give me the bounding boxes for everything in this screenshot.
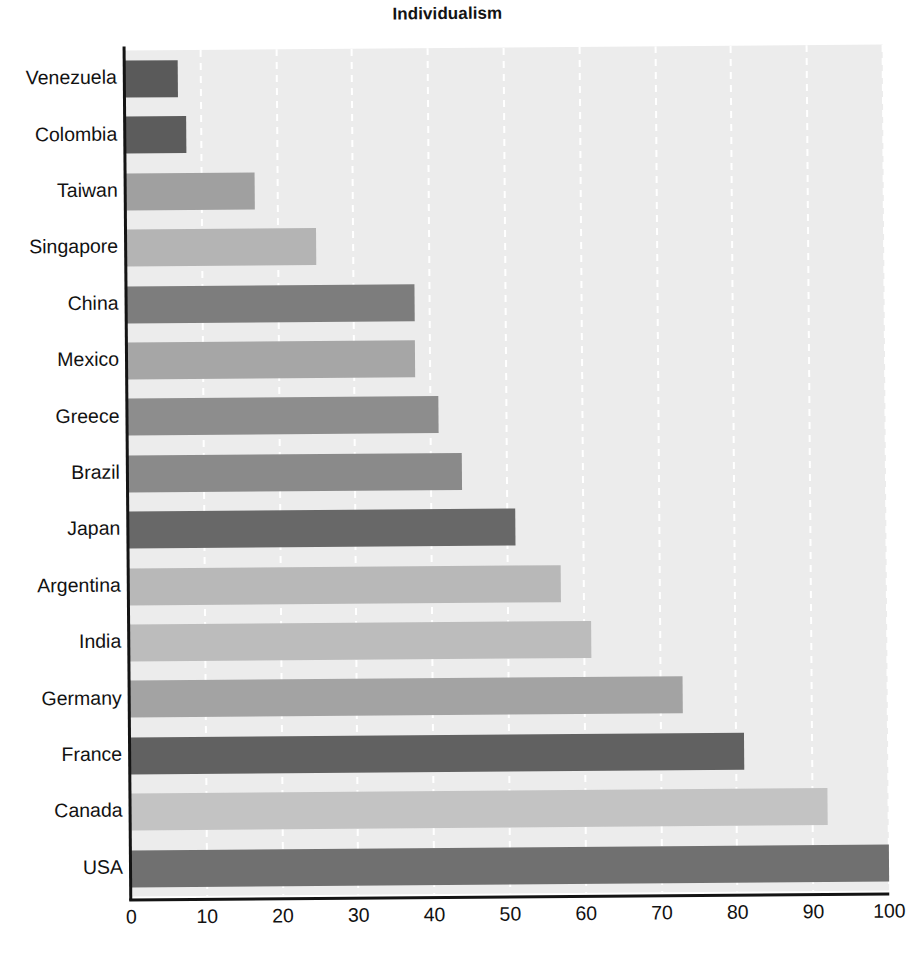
bar-row bbox=[125, 45, 883, 107]
y-tick-label-argentina: Argentina bbox=[3, 573, 121, 597]
bars-group bbox=[125, 45, 883, 51]
x-tick-label-100: 100 bbox=[859, 899, 910, 922]
bar-row bbox=[125, 101, 883, 163]
bar-row bbox=[130, 778, 888, 840]
x-tick-label-30: 30 bbox=[329, 904, 389, 927]
x-tick-label-0: 0 bbox=[101, 905, 161, 928]
bar-row bbox=[127, 327, 885, 389]
bar-row bbox=[129, 609, 887, 671]
y-axis-tick-labels: VenezuelaColombiaTaiwanSingaporeChinaMex… bbox=[0, 51, 123, 898]
y-tick-label-germany: Germany bbox=[4, 686, 122, 710]
y-tick-label-usa: USA bbox=[5, 855, 123, 879]
x-tick-label-80: 80 bbox=[708, 901, 768, 924]
y-tick-label-france: France bbox=[4, 743, 122, 767]
x-tick-label-50: 50 bbox=[480, 902, 540, 925]
chart-title: Individualism bbox=[0, 0, 898, 27]
bar-brazil[interactable] bbox=[128, 453, 462, 493]
y-tick-label-india: India bbox=[3, 630, 121, 654]
chart-figure: Individualism VenezuelaColombiaTaiwanSin… bbox=[0, 0, 906, 965]
plot-area bbox=[125, 45, 890, 897]
bar-row bbox=[127, 383, 885, 445]
bar-france[interactable] bbox=[130, 733, 744, 775]
bar-china[interactable] bbox=[126, 284, 414, 323]
bar-mexico[interactable] bbox=[127, 340, 415, 379]
y-tick-label-canada: Canada bbox=[4, 799, 122, 823]
bar-row bbox=[128, 496, 886, 558]
y-tick-label-greece: Greece bbox=[1, 404, 119, 428]
y-tick-label-japan: Japan bbox=[2, 517, 120, 541]
bar-singapore[interactable] bbox=[126, 228, 316, 266]
y-tick-label-singapore: Singapore bbox=[0, 235, 118, 259]
bar-row bbox=[131, 834, 889, 896]
x-axis-tick-labels: 0102030405060708090100 bbox=[3, 899, 905, 946]
y-tick-label-colombia: Colombia bbox=[0, 122, 117, 146]
y-tick-label-venezuela: Venezuela bbox=[0, 66, 117, 90]
bar-japan[interactable] bbox=[128, 509, 515, 549]
x-tick-label-90: 90 bbox=[783, 900, 843, 923]
bar-canada[interactable] bbox=[130, 788, 828, 830]
bar-venezuela[interactable] bbox=[125, 60, 178, 97]
x-tick-label-10: 10 bbox=[177, 905, 237, 928]
y-tick-label-brazil: Brazil bbox=[2, 461, 120, 485]
x-tick-label-40: 40 bbox=[404, 903, 464, 926]
bar-row bbox=[128, 439, 886, 501]
bar-row bbox=[126, 214, 884, 276]
y-tick-label-mexico: Mexico bbox=[1, 348, 119, 372]
x-tick-label-70: 70 bbox=[632, 901, 692, 924]
bar-row bbox=[130, 721, 888, 783]
bar-greece[interactable] bbox=[127, 396, 438, 435]
y-tick-label-taiwan: Taiwan bbox=[0, 179, 118, 203]
bar-argentina[interactable] bbox=[129, 565, 561, 605]
y-tick-label-china: China bbox=[0, 291, 118, 315]
bar-usa[interactable] bbox=[131, 844, 889, 887]
bar-germany[interactable] bbox=[130, 677, 684, 718]
x-tick-label-60: 60 bbox=[556, 902, 616, 925]
bar-india[interactable] bbox=[129, 621, 592, 662]
bar-taiwan[interactable] bbox=[126, 172, 255, 210]
bar-row bbox=[129, 665, 887, 727]
x-tick-label-20: 20 bbox=[253, 904, 313, 927]
bar-colombia[interactable] bbox=[125, 116, 186, 153]
bar-row bbox=[126, 270, 884, 332]
bar-row bbox=[125, 157, 883, 219]
bar-row bbox=[129, 552, 887, 614]
